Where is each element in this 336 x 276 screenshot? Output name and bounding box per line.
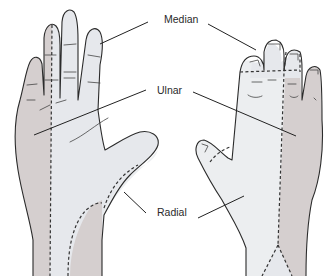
right-hand-dorsal — [196, 40, 323, 276]
label-median: Median — [164, 13, 198, 25]
left-hand-palmar — [15, 10, 158, 276]
label-ulnar: Ulnar — [157, 84, 182, 96]
label-radial: Radial — [157, 206, 187, 218]
left-ulnar-zone — [15, 23, 52, 276]
median-leader-right — [208, 24, 256, 50]
radial-leader-left — [124, 192, 146, 213]
right-median-finger-zone — [250, 44, 300, 78]
median-leader-left — [100, 22, 148, 44]
hand-nerve-diagram — [0, 0, 336, 276]
